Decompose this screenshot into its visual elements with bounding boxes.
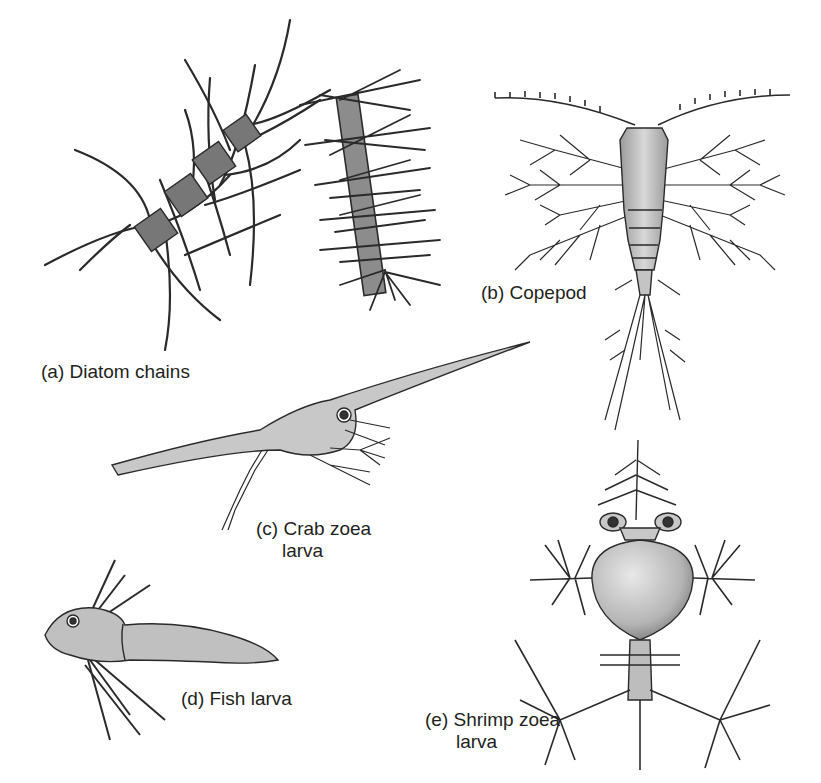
- label-diatom-chains: (a) Diatom chains: [41, 361, 190, 383]
- label-text: (d) Fish larva: [181, 688, 292, 709]
- label-fish-larva: (d) Fish larva: [181, 688, 292, 710]
- label-text: (a) Diatom chains: [41, 361, 190, 382]
- label-text: (e) Shrimp zoea: [425, 709, 560, 730]
- label-shrimp-zoea: (e) Shrimp zoea larva: [425, 709, 560, 753]
- label-crab-zoea: (c) Crab zoea larva: [256, 518, 371, 562]
- label-text-line2: larva: [256, 540, 371, 562]
- plankton-illustration: [0, 0, 821, 783]
- label-text-line2: larva: [425, 731, 560, 753]
- copepod: [495, 89, 790, 430]
- fish-larva: [45, 560, 278, 740]
- label-copepod: (b) Copepod: [481, 282, 587, 304]
- diatom-chain-straight: [300, 70, 440, 310]
- label-text: (c) Crab zoea: [256, 518, 371, 539]
- label-text: (b) Copepod: [481, 282, 587, 303]
